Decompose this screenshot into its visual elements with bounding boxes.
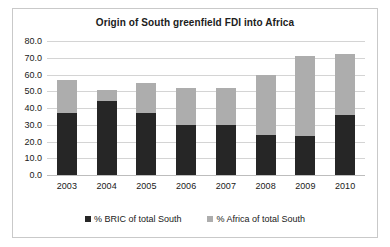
bar-segment-bric[interactable] — [335, 115, 355, 175]
bar-segment-bric[interactable] — [216, 125, 236, 175]
x-axis-tick-label: 2005 — [127, 181, 167, 191]
legend-swatch-icon — [85, 216, 91, 222]
x-axis-tick-label: 2009 — [286, 181, 326, 191]
bar-stack[interactable] — [295, 56, 315, 175]
x-axis-tick-label: 2010 — [325, 181, 365, 191]
plot-area: 0.010.020.030.040.050.060.070.080.0 2003… — [47, 41, 365, 175]
bar-group-2006[interactable]: 2006 — [166, 41, 206, 175]
x-axis-tick-label: 2008 — [246, 181, 286, 191]
bar-stack[interactable] — [176, 88, 196, 175]
chart-legend: % BRIC of total South% Africa of total S… — [13, 214, 377, 224]
bar-segment-bric[interactable] — [136, 113, 156, 175]
gridline — [47, 175, 365, 176]
bar-group-2004[interactable]: 2004 — [87, 41, 127, 175]
bar-segment-bric[interactable] — [176, 125, 196, 175]
bar-segment-africa[interactable] — [295, 56, 315, 136]
bar-segment-bric[interactable] — [57, 113, 77, 175]
x-axis-tick-label: 2007 — [206, 181, 246, 191]
bar-stack[interactable] — [216, 88, 236, 175]
y-axis-tick-label: 20.0 — [24, 137, 42, 147]
bar-segment-bric[interactable] — [295, 136, 315, 175]
legend-entry-bric[interactable]: % BRIC of total South — [85, 214, 182, 224]
bar-segment-africa[interactable] — [216, 88, 236, 125]
legend-swatch-icon — [207, 216, 213, 222]
bar-stack[interactable] — [97, 90, 117, 175]
bar-group-2005[interactable]: 2005 — [127, 41, 167, 175]
bar-segment-africa[interactable] — [256, 75, 276, 135]
y-axis-tick-label: 80.0 — [24, 36, 42, 46]
x-axis-tick-label: 2006 — [166, 181, 206, 191]
y-axis-tick-label: 0.0 — [29, 170, 42, 180]
bar-segment-africa[interactable] — [57, 80, 77, 114]
bar-segment-africa[interactable] — [176, 88, 196, 125]
y-axis-tick-label: 70.0 — [24, 53, 42, 63]
bar-stack[interactable] — [256, 75, 276, 175]
legend-entry-africa[interactable]: % Africa of total South — [207, 214, 305, 224]
bar-stack[interactable] — [136, 83, 156, 175]
chart-frame: Origin of South greenfield FDI into Afri… — [12, 8, 378, 238]
y-axis-tick-label: 10.0 — [24, 153, 42, 163]
bar-group-2008[interactable]: 2008 — [246, 41, 286, 175]
bar-group-2009[interactable]: 2009 — [286, 41, 326, 175]
bar-segment-africa[interactable] — [136, 83, 156, 113]
bar-stack[interactable] — [335, 54, 355, 175]
bar-segment-africa[interactable] — [97, 90, 117, 102]
x-axis-tick-label: 2003 — [47, 181, 87, 191]
bar-segment-bric[interactable] — [256, 135, 276, 175]
bar-segment-africa[interactable] — [335, 54, 355, 114]
bar-group-2003[interactable]: 2003 — [47, 41, 87, 175]
y-axis-tick-label: 30.0 — [24, 120, 42, 130]
bar-stack[interactable] — [57, 80, 77, 175]
bar-group-2010[interactable]: 2010 — [325, 41, 365, 175]
chart-title: Origin of South greenfield FDI into Afri… — [13, 17, 377, 28]
y-axis-tick-label: 60.0 — [24, 70, 42, 80]
y-axis-tick-label: 40.0 — [24, 103, 42, 113]
x-axis-tick-label: 2004 — [87, 181, 127, 191]
y-axis-tick-label: 50.0 — [24, 86, 42, 96]
bar-series-group: 20032004200520062007200820092010 — [47, 41, 365, 175]
legend-label: % BRIC of total South — [94, 214, 182, 224]
legend-label: % Africa of total South — [216, 214, 305, 224]
bar-group-2007[interactable]: 2007 — [206, 41, 246, 175]
bar-segment-bric[interactable] — [97, 101, 117, 175]
